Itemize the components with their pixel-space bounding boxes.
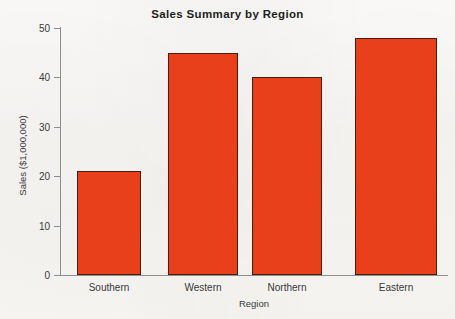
x-axis-tick-label: Eastern <box>355 282 437 293</box>
y-axis-tick <box>54 275 61 276</box>
bar-chart-figure: Sales Summary by Region 50403020100 Sale… <box>0 0 455 319</box>
bar-eastern <box>355 38 437 275</box>
bar-northern <box>252 77 322 275</box>
x-axis-line <box>60 275 448 276</box>
y-axis-title: Sales ($1,000,000) <box>17 76 28 236</box>
x-axis-tick-label: Northern <box>252 282 322 293</box>
x-axis-tick-label: Southern <box>77 282 141 293</box>
chart-title: Sales Summary by Region <box>0 8 455 20</box>
bar-southern <box>77 171 141 275</box>
x-axis-tick-label: Western <box>168 282 238 293</box>
y-axis-tick-label: 0 <box>16 270 50 281</box>
plot-area <box>60 28 448 275</box>
bar-western <box>168 53 238 275</box>
x-axis-title: Region <box>60 298 448 309</box>
y-axis-tick-label: 50 <box>16 23 50 34</box>
